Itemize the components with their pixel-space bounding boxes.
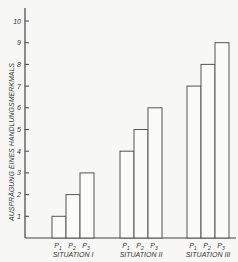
y-tick-label: 7 — [17, 83, 22, 90]
y-tick-label: 2 — [16, 191, 21, 198]
bar — [80, 173, 94, 238]
bar — [215, 43, 229, 238]
group-label: SITUATION I — [53, 251, 94, 258]
bar-label: P1 — [122, 242, 130, 251]
group-label: SITUATION II — [120, 251, 163, 258]
group-label: SITUATION III — [186, 251, 231, 258]
bar-label: P3 — [150, 242, 158, 251]
bar — [187, 86, 201, 238]
bar-label: P3 — [217, 242, 225, 251]
bar-label: P1 — [54, 242, 62, 251]
bar-label: P2 — [136, 242, 144, 251]
y-tick-label: 4 — [17, 148, 21, 155]
y-tick-label: 10 — [13, 18, 21, 25]
y-tick-label: 3 — [17, 169, 21, 176]
bar-label: P2 — [68, 242, 76, 251]
bar — [66, 195, 80, 238]
y-tick-label: 8 — [17, 61, 21, 68]
y-tick-label: 9 — [17, 39, 21, 46]
y-tick-label: 1 — [17, 213, 21, 220]
y-tick-label: 6 — [17, 104, 21, 111]
bar — [120, 151, 134, 238]
bar-label: P1 — [189, 242, 197, 251]
bar — [134, 130, 148, 239]
bar-label: P3 — [82, 242, 90, 251]
y-tick-label: 5 — [17, 126, 21, 133]
bar-label: P2 — [203, 242, 211, 251]
bar — [52, 216, 66, 238]
bar-chart: 12345678910AUSPRÄGUNG EINES HANDLUNGSMER… — [0, 0, 238, 262]
y-axis-label: AUSPRÄGUNG EINES HANDLUNGSMERKMALS — [8, 63, 15, 222]
bar — [201, 64, 215, 238]
bar — [148, 108, 162, 238]
